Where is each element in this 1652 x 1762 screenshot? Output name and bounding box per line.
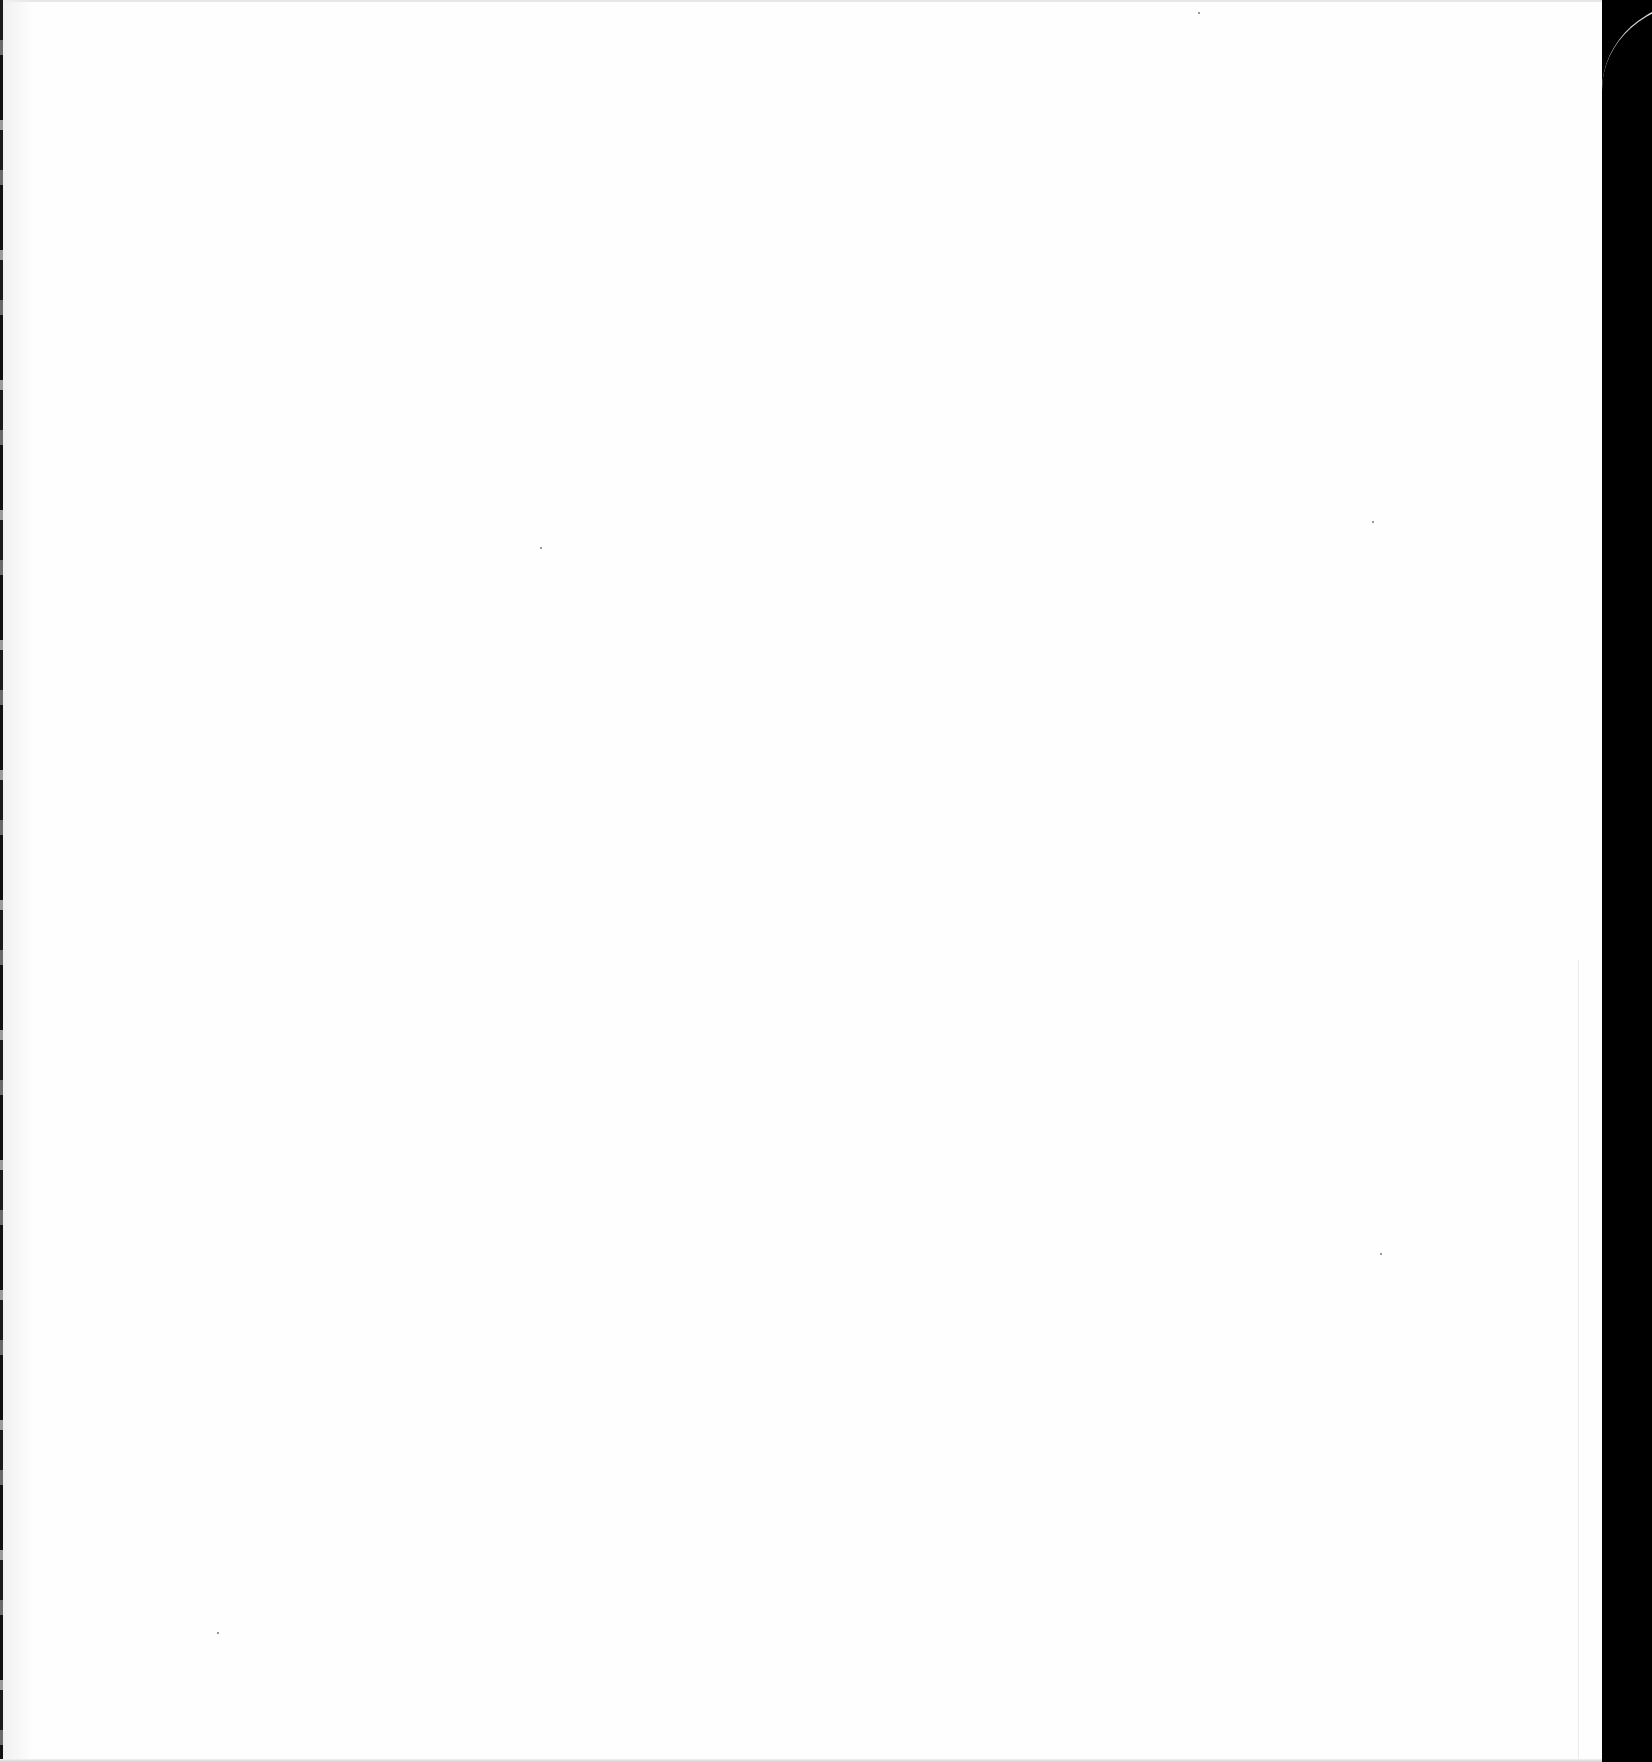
right-black-scan-margin bbox=[1602, 0, 1652, 1762]
page-corner-curve bbox=[1602, 0, 1652, 40]
scan-speck bbox=[540, 547, 542, 549]
scan-speck bbox=[1198, 12, 1200, 14]
scan-speck bbox=[217, 1632, 219, 1634]
page-edge-line bbox=[1578, 960, 1579, 1762]
scan-speck bbox=[1372, 521, 1374, 523]
blank-scanned-page bbox=[0, 0, 1602, 1762]
left-scan-shadow bbox=[3, 0, 33, 1762]
scan-speck bbox=[1380, 1253, 1382, 1255]
top-scan-edge bbox=[0, 0, 1602, 2]
